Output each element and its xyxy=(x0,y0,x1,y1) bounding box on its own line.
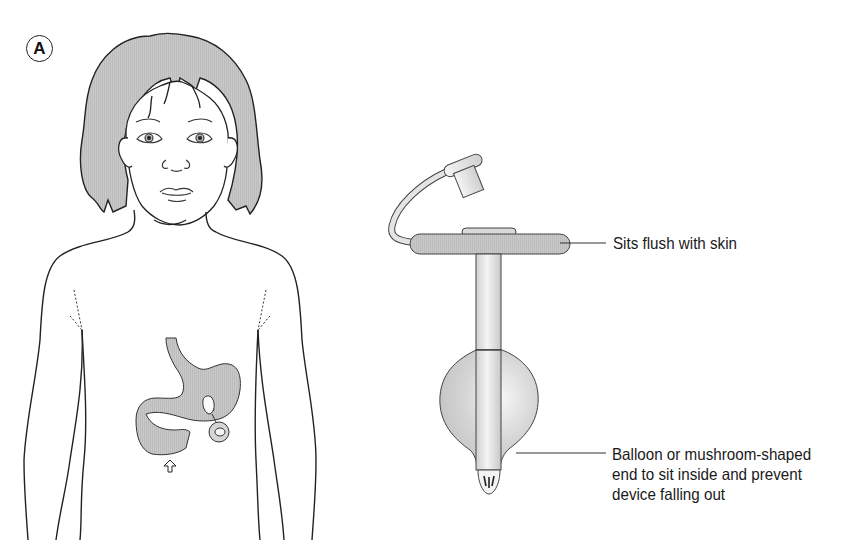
child-face xyxy=(119,81,238,225)
up-arrow-icon xyxy=(164,460,176,472)
callout-balloon: Balloon or mushroom-shaped end to sit in… xyxy=(612,444,811,504)
callout-balloon-line1: Balloon or mushroom-shaped xyxy=(612,444,811,464)
gastrostomy-device xyxy=(392,152,570,494)
callout-balloon-line2: end to sit inside and prevent xyxy=(612,464,811,484)
callout-sits-flush: Sits flush with skin xyxy=(613,233,737,253)
child-body xyxy=(24,210,316,540)
gastrostomy-figure: A xyxy=(0,0,848,556)
callout-balloon-line3: device falling out xyxy=(612,484,811,504)
armpit-dotted-lines xyxy=(70,290,270,330)
